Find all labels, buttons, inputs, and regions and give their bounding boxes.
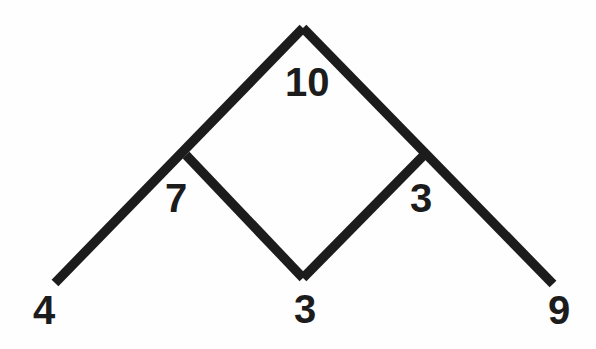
label-bottom-center-value: 3 xyxy=(294,289,316,329)
diagram-canvas: 10 7 3 4 3 9 xyxy=(0,0,596,349)
label-left-end-value: 4 xyxy=(33,290,55,330)
label-right-end-value: 9 xyxy=(548,290,570,330)
label-apex-value: 10 xyxy=(285,62,330,102)
edge-diamond-lower-left xyxy=(186,155,303,278)
label-right-junction-value: 3 xyxy=(410,178,432,218)
edge-diamond-lower-right xyxy=(303,155,424,278)
label-left-junction-value: 7 xyxy=(165,178,187,218)
